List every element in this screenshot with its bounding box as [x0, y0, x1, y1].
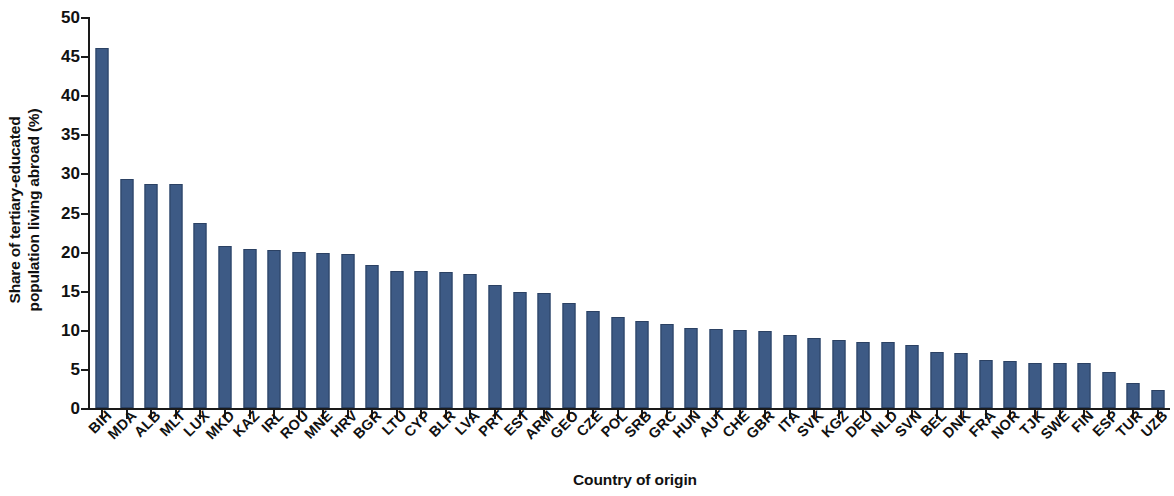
bar[interactable] [390, 271, 403, 408]
y-axis-tick-mark [81, 95, 89, 97]
bar-slot[interactable] [311, 17, 336, 408]
bar-slot[interactable] [286, 17, 311, 408]
bar[interactable] [758, 331, 771, 408]
y-axis-tick-mark [81, 252, 89, 254]
bar[interactable] [734, 330, 747, 408]
bar-slot[interactable] [164, 17, 189, 408]
y-axis-tick-label: 20 [61, 243, 80, 260]
bar[interactable] [366, 265, 379, 408]
y-axis-tick-mark [81, 173, 89, 175]
bar-series [90, 17, 1170, 408]
y-axis-title-container: Share of tertiary-educated population li… [0, 0, 48, 420]
bar[interactable] [685, 328, 698, 408]
bar-slot[interactable] [434, 17, 459, 408]
bar-slot[interactable] [139, 17, 164, 408]
bar[interactable] [268, 250, 281, 408]
bar-slot[interactable] [237, 17, 262, 408]
bar-slot[interactable] [90, 17, 115, 408]
bar[interactable] [488, 285, 501, 408]
bar[interactable] [857, 342, 870, 408]
bar-slot[interactable] [630, 17, 655, 408]
bar[interactable] [660, 324, 673, 408]
bar-slot[interactable] [679, 17, 704, 408]
bar-slot[interactable] [409, 17, 434, 408]
bar-slot[interactable] [802, 17, 827, 408]
bar-slot[interactable] [1096, 17, 1121, 408]
bar[interactable] [979, 360, 992, 408]
bar-slot[interactable] [875, 17, 900, 408]
bar[interactable] [611, 317, 624, 408]
bar-slot[interactable] [458, 17, 483, 408]
bar[interactable] [881, 342, 894, 408]
bar-slot[interactable] [753, 17, 778, 408]
bar-slot[interactable] [360, 17, 385, 408]
bar-slot[interactable] [507, 17, 532, 408]
bar[interactable] [562, 303, 575, 408]
bar-slot[interactable] [1072, 17, 1097, 408]
bar-slot[interactable] [188, 17, 213, 408]
bar[interactable] [709, 329, 722, 408]
x-axis-title: Country of origin [0, 471, 1174, 489]
bar[interactable] [538, 293, 551, 408]
bar-slot[interactable] [385, 17, 410, 408]
bar[interactable] [169, 184, 182, 408]
bar-slot[interactable] [335, 17, 360, 408]
bar[interactable] [243, 249, 256, 408]
bar[interactable] [808, 338, 821, 408]
bar[interactable] [832, 340, 845, 408]
y-axis-tick-mark [81, 213, 89, 215]
bar-slot[interactable] [1145, 17, 1170, 408]
bar-slot[interactable] [777, 17, 802, 408]
bar-slot[interactable] [1121, 17, 1146, 408]
bar-slot[interactable] [605, 17, 630, 408]
y-axis-tick-mark [81, 134, 89, 136]
bar-slot[interactable] [728, 17, 753, 408]
bar-slot[interactable] [1023, 17, 1048, 408]
bar[interactable] [636, 321, 649, 408]
bar[interactable] [120, 179, 133, 408]
y-axis-title: Share of tertiary-educated population li… [5, 109, 43, 312]
bar[interactable] [194, 223, 207, 408]
bar[interactable] [145, 184, 158, 408]
y-axis-tick-mark [81, 291, 89, 293]
bar-slot[interactable] [998, 17, 1023, 408]
bar-slot[interactable] [900, 17, 925, 408]
bar[interactable] [341, 254, 354, 408]
bar[interactable] [292, 252, 305, 408]
bar-slot[interactable] [581, 17, 606, 408]
bar-slot[interactable] [704, 17, 729, 408]
bar-slot[interactable] [974, 17, 999, 408]
y-axis-tick-label: 15 [61, 282, 80, 299]
x-axis-title-text: Country of origin [573, 471, 697, 489]
bar-slot[interactable] [483, 17, 508, 408]
bar-slot[interactable] [1047, 17, 1072, 408]
y-axis-tick-label: 10 [61, 321, 80, 338]
bar[interactable] [1004, 361, 1017, 408]
bar[interactable] [317, 253, 330, 408]
plot-area [88, 17, 1170, 408]
bar[interactable] [96, 48, 109, 409]
bar-slot[interactable] [826, 17, 851, 408]
bar[interactable] [955, 353, 968, 408]
bar-slot[interactable] [851, 17, 876, 408]
bar-slot[interactable] [532, 17, 557, 408]
bar-slot[interactable] [556, 17, 581, 408]
x-axis-tick-labels: BIHMDAALBMLTLUXMKDKAZIRLROUMNEHRVBGRLTUC… [90, 402, 1170, 464]
bar-slot[interactable] [925, 17, 950, 408]
bar[interactable] [415, 271, 428, 408]
bar-slot[interactable] [115, 17, 140, 408]
y-axis-tick-label: 50 [61, 9, 80, 26]
bar[interactable] [783, 335, 796, 409]
bar[interactable] [513, 292, 526, 408]
bar[interactable] [218, 246, 231, 408]
bar-slot[interactable] [949, 17, 974, 408]
bar[interactable] [906, 345, 919, 408]
bar[interactable] [930, 352, 943, 408]
bar[interactable] [587, 311, 600, 408]
bar[interactable] [464, 274, 477, 409]
bar[interactable] [439, 272, 452, 408]
bar-slot[interactable] [655, 17, 680, 408]
bar-slot[interactable] [213, 17, 238, 408]
bar-slot[interactable] [262, 17, 287, 408]
y-axis-tick-label: 30 [61, 165, 80, 182]
